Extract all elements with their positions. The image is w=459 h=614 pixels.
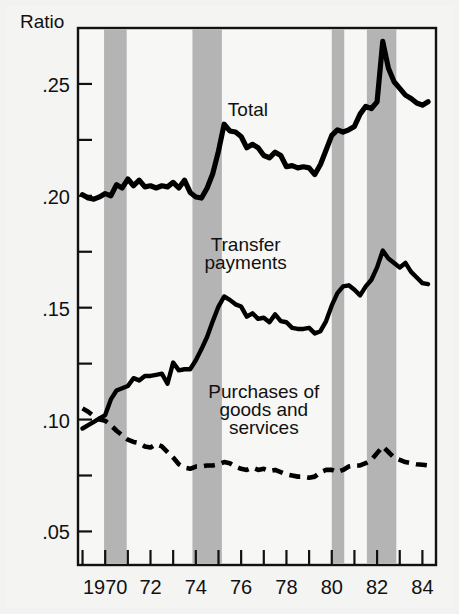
x-tick-label-80: 80 [321, 576, 343, 598]
y-tick-label-20: .20 [42, 186, 70, 208]
x-tick-label-82: 82 [366, 576, 388, 598]
y-tick-label-05: .05 [42, 521, 70, 543]
x-tick-label-74: 74 [185, 576, 207, 598]
chart-figure: .05.10.15.20.25 197072747678808284 Ratio… [0, 0, 459, 614]
annotation-total: Total [228, 99, 268, 120]
y-axis-title: Ratio [20, 11, 64, 32]
ratio-line-chart: .05.10.15.20.25 197072747678808284 Ratio… [6, 6, 453, 608]
recession-band-2 [192, 29, 221, 564]
y-tick-label-25: .25 [42, 74, 70, 96]
chart-paper: .05.10.15.20.25 197072747678808284 Ratio… [6, 6, 453, 608]
x-tick-label-78: 78 [275, 576, 297, 598]
annotation-payments: payments [204, 252, 286, 273]
x-axis-tick-labels-group: 197072747678808284 [83, 576, 434, 598]
recession-band-1 [104, 29, 127, 564]
x-tick-label-76: 76 [230, 576, 252, 598]
x-tick-label-1970: 1970 [83, 576, 128, 598]
x-tick-label-72: 72 [139, 576, 161, 598]
y-axis-tick-labels-group: .05.10.15.20.25 [42, 74, 70, 544]
y-tick-label-15: .15 [42, 298, 70, 320]
annotation-services: services [229, 417, 299, 438]
y-tick-label-10: .10 [42, 410, 70, 432]
x-tick-label-84: 84 [411, 576, 433, 598]
